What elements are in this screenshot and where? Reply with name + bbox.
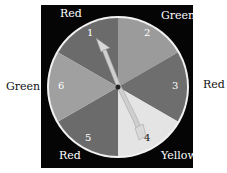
outer-label-top-right: Green [161, 9, 195, 22]
outer-label-bottom-left: Red [59, 149, 81, 162]
sector-number-2: 2 [144, 27, 150, 38]
outer-label-right: Red [203, 78, 225, 91]
outer-label-left: Green [6, 80, 40, 93]
sector-number-3: 3 [172, 80, 178, 91]
spinner-hub [116, 85, 121, 90]
sector-number-1: 1 [87, 27, 93, 38]
outer-label-bottom-right: Yellow [161, 149, 197, 162]
outer-label-top-left: Red [60, 7, 82, 20]
sector-number-6: 6 [58, 80, 64, 91]
sector-number-5: 5 [85, 132, 91, 143]
sector-number-4: 4 [144, 132, 150, 143]
